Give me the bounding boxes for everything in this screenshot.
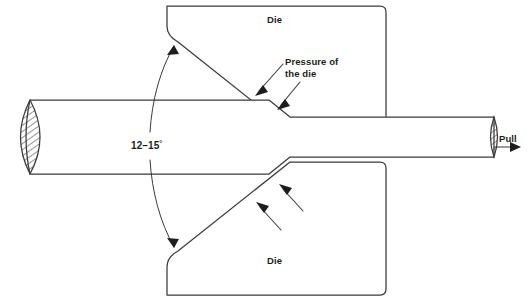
workpiece-rod xyxy=(26,100,494,174)
die-angle-value: 12–15 xyxy=(131,140,159,151)
upper-die-label: Die xyxy=(267,14,282,26)
wire-drawing-figure: Die Die Pressure of the die 12–15° Pull xyxy=(0,0,527,301)
lower-die-block xyxy=(167,162,386,295)
lower-die-label: Die xyxy=(267,255,282,267)
degree-symbol: ° xyxy=(159,140,162,147)
die-angle-label: 12–15° xyxy=(131,140,162,153)
pressure-of-the-die-label: Pressure of the die xyxy=(285,56,338,80)
die-angle-arrowhead-upper xyxy=(167,45,179,55)
die-angle-arrowhead-lower xyxy=(167,238,179,248)
figure-canvas xyxy=(0,0,527,301)
pull-label: Pull xyxy=(499,133,517,145)
